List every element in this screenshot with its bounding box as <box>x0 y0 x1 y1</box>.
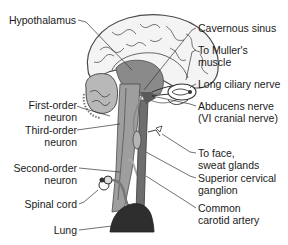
spinal-ganglion <box>99 176 112 190</box>
label-line: Lung <box>54 224 77 236</box>
cerebellum <box>84 74 118 118</box>
label-to-face-sweat-glands: To face, sweat glands <box>198 147 259 171</box>
label-line: Abducens nerve <box>198 100 278 112</box>
label-hypothalamus: Hypothalamus <box>9 14 76 26</box>
label-line: muscle <box>198 56 248 68</box>
label-line: neuron <box>25 136 77 148</box>
label-cavernous-sinus: Cavernous sinus <box>198 22 276 34</box>
label-line: Cavernous sinus <box>198 22 276 34</box>
label-long-ciliary-nerve: Long ciliary nerve <box>198 78 280 90</box>
label-line: Hypothalamus <box>9 14 76 26</box>
label-line: neuron <box>29 111 77 123</box>
label-line: First-order <box>29 99 77 111</box>
label-superior-cervical-ganglion: Superior cervical ganglion <box>198 172 276 196</box>
label-line: (VI cranial nerve) <box>198 112 278 124</box>
label-line: sweat glands <box>198 159 259 171</box>
label-line: ganglion <box>198 184 276 196</box>
label-line: Second-order <box>13 162 77 174</box>
label-line: carotid artery <box>198 214 259 226</box>
label-lung: Lung <box>54 224 77 236</box>
label-line: To Muller's <box>198 44 248 56</box>
label-abducens-nerve: Abducens nerve (VI cranial nerve) <box>198 100 278 124</box>
label-third-order-neuron: Third-order neuron <box>25 124 77 148</box>
label-line: To face, <box>198 147 259 159</box>
label-spinal-cord: Spinal cord <box>24 198 77 210</box>
superior-cervical-ganglion <box>133 131 141 149</box>
label-to-mullers-muscle: To Muller's muscle <box>198 44 248 68</box>
label-line: Spinal cord <box>24 198 77 210</box>
label-second-order-neuron: Second-order neuron <box>13 162 77 186</box>
label-line: Long ciliary nerve <box>198 78 280 90</box>
label-line: Superior cervical <box>198 172 276 184</box>
label-common-carotid-artery: Common carotid artery <box>198 202 259 226</box>
label-line: Third-order <box>25 124 77 136</box>
label-first-order-neuron: First-order neuron <box>29 99 77 123</box>
label-line: Common <box>198 202 259 214</box>
label-line: neuron <box>13 174 77 186</box>
